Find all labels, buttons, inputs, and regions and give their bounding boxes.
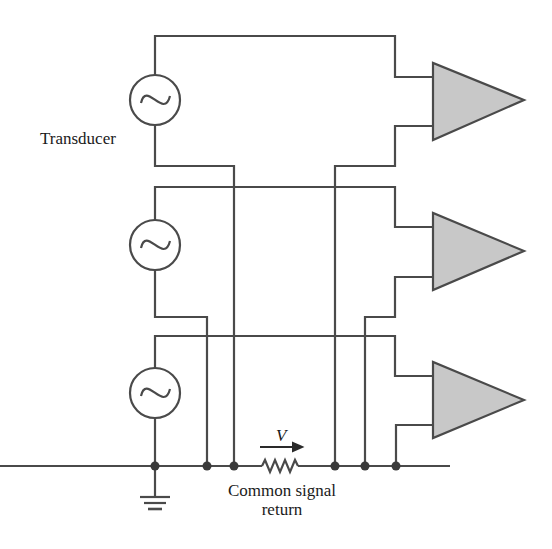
circuit-diagram	[0, 0, 552, 549]
resistor	[262, 460, 298, 472]
ac-source-icon	[130, 220, 180, 270]
source-2-wiring	[155, 187, 432, 466]
common-return-label-line1: Common signal	[212, 481, 352, 500]
ground-icon	[140, 497, 170, 509]
amplifier-icon	[433, 362, 524, 438]
source-3-wiring	[155, 336, 432, 497]
common-return-label-line2: return	[212, 500, 352, 519]
transducer-label: Transducer	[40, 129, 116, 148]
common-return-bus	[0, 460, 450, 472]
ac-source-icon	[130, 75, 180, 125]
common-return-label: Common signal return	[212, 481, 352, 519]
amplifier-icon	[433, 63, 524, 140]
ac-source-icon	[130, 368, 180, 418]
voltage-label: V	[276, 426, 286, 445]
amplifier-icon	[433, 213, 524, 290]
source-1-wiring	[155, 36, 432, 466]
